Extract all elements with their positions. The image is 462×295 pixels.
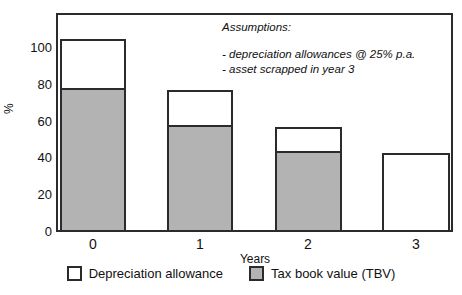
assumption-line-1: - depreciation allowances @ 25% p.a. (222, 47, 415, 62)
y-tick-label-0: 0 (6, 227, 52, 237)
x-tick-label-1: 1 (170, 236, 230, 252)
legend-swatch-gray-icon (249, 266, 264, 281)
depreciation-bar-chart: % 100 80 60 40 20 0 0 1 2 3 Years Assump… (0, 0, 462, 295)
y-tick-label-80: 80 (6, 80, 52, 90)
x-tick-label-2: 2 (278, 236, 338, 252)
y-tick-label-100: 100 (6, 43, 52, 53)
legend-item-depreciation-allowance: Depreciation allowance (67, 266, 223, 281)
legend-label-tax-book-value: Tax book value (TBV) (271, 266, 395, 281)
y-axis-tick-labels: 100 80 60 40 20 0 (0, 0, 52, 295)
bar-total-year-3 (382, 153, 450, 232)
x-axis-title: Years (215, 252, 295, 266)
y-tick-label-60: 60 (6, 117, 52, 127)
x-tick-label-0: 0 (63, 236, 123, 252)
assumptions-title: Assumptions: (222, 20, 415, 35)
assumptions-annotation: Assumptions: - depreciation allowances @… (222, 20, 415, 77)
legend-item-tax-book-value: Tax book value (TBV) (249, 266, 395, 281)
bar-tbv-year-2 (275, 151, 342, 232)
bar-tbv-year-0 (60, 88, 126, 232)
bar-tbv-year-1 (167, 125, 233, 232)
legend-swatch-white-icon (67, 266, 82, 281)
y-tick-label-40: 40 (6, 153, 52, 163)
y-tick-label-20: 20 (6, 190, 52, 200)
legend-label-depreciation-allowance: Depreciation allowance (89, 266, 223, 281)
assumption-line-2: - asset scrapped in year 3 (222, 62, 415, 77)
x-tick-label-3: 3 (386, 236, 446, 252)
chart-legend: Depreciation allowance Tax book value (T… (0, 266, 462, 281)
